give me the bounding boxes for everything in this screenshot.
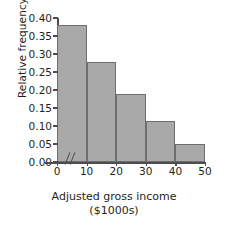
- y-axis-tick-label: 0.40: [29, 13, 52, 23]
- y-axis-tick-label: 0.25: [29, 67, 52, 77]
- y-axis-tick-mark: [53, 53, 58, 54]
- x-axis-tick-labels: 01020304050: [57, 166, 217, 180]
- x-axis-tick-label: 40: [169, 166, 182, 177]
- y-axis-tick-label: 0.15: [29, 103, 52, 113]
- y-axis-tick-mark: [53, 125, 58, 126]
- y-axis-tick-mark: [53, 107, 58, 108]
- y-axis-tick-mark: [53, 71, 58, 72]
- x-axis-tick-label: 10: [80, 166, 93, 177]
- y-axis-tick-label: 0.35: [29, 31, 52, 41]
- plot-area: [57, 18, 205, 162]
- y-axis-tick-label: 0.10: [29, 121, 52, 131]
- x-axis-tick-label: 30: [139, 166, 152, 177]
- x-axis-tick-label: 50: [198, 166, 211, 177]
- x-axis-label: Adjusted gross income ($1000s): [0, 190, 228, 218]
- x-axis-label-line2: ($1000s): [0, 204, 228, 218]
- histogram-bar: [116, 94, 146, 162]
- y-axis-tick-mark: [53, 35, 58, 36]
- histogram-bar: [175, 144, 205, 162]
- histogram-chart: Relative frequency 0.000.050.100.150.200…: [0, 0, 228, 233]
- axis-break-icon: [64, 152, 80, 166]
- y-axis-tick-label: 0.05: [29, 139, 52, 149]
- axis-break-slash-2: [70, 152, 76, 165]
- histogram-bar: [87, 62, 117, 162]
- x-axis-tick-label: 20: [110, 166, 123, 177]
- histogram-bar: [146, 121, 176, 162]
- x-axis-tick-label: 0: [54, 166, 61, 177]
- y-axis-tick-mark: [53, 89, 58, 90]
- histogram-bar: [57, 25, 87, 162]
- bar-series: [57, 18, 205, 162]
- y-axis-tick-mark: [53, 17, 58, 18]
- y-axis-tick-mark: [53, 143, 58, 144]
- x-axis-label-line1: Adjusted gross income: [52, 190, 177, 203]
- y-axis-tick-label: 0.30: [29, 49, 52, 59]
- y-axis-tick-label: 0.20: [29, 85, 52, 95]
